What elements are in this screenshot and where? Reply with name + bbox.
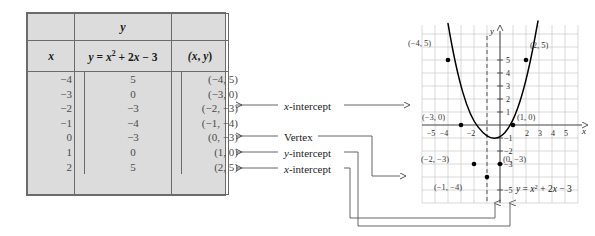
annotation-label-rest: -intercept <box>289 100 331 112</box>
point-label-0-neg3: (0, −3) <box>503 154 526 164</box>
table-row: 2 5 (2, 5) <box>26 160 244 175</box>
table-row: −3 0 (−3, 0) <box>26 87 244 102</box>
cell-pair: (2, 5) <box>182 160 245 175</box>
header-pair-blank-top <box>172 14 229 41</box>
y-axis-label: y <box>489 26 494 36</box>
cell-pair: (−1, −4) <box>182 116 245 131</box>
table-header-row-1: y <box>28 14 229 41</box>
cell-y: 5 <box>85 160 182 175</box>
point-1-0 <box>511 123 516 128</box>
cell-x: 0 <box>26 130 85 145</box>
header-corner-blank <box>28 14 75 41</box>
cell-pair: (−4, 5) <box>182 72 245 87</box>
annotation-y-intercept: y-intercept <box>284 147 331 159</box>
xtick-2: 2 <box>525 129 529 138</box>
point-neg1-neg4-vertex <box>485 175 490 180</box>
parabola-graph: x y −5 −4 −2 2 3 4 5 5 4 3 2 1 −1 −2 −3 … <box>404 12 595 208</box>
cell-y: −4 <box>85 116 182 131</box>
annotation-label-rest: -intercept <box>289 147 331 159</box>
cell-y: −3 <box>85 101 182 116</box>
point-2-5 <box>524 58 529 63</box>
cell-pair: (−2, −3) <box>182 101 245 116</box>
xtick-neg2: −2 <box>467 129 476 138</box>
ytick-2: 2 <box>506 95 510 104</box>
parabola-curve <box>448 22 541 109</box>
table-header-row-2: x y = x2 + 2x − 3 (x, y) <box>28 41 229 72</box>
point-0-neg3 <box>498 162 503 167</box>
table-body: −4 5 (−4, 5) −3 0 (−3, 0) −2 −3 (−2, −3)… <box>26 72 226 196</box>
annotation-label-rest: Vertex <box>284 131 313 143</box>
cell-x: 2 <box>26 160 85 175</box>
cell-pair: (1, 0) <box>182 145 245 160</box>
ytick-4: 4 <box>506 69 510 78</box>
ytick-3: 3 <box>506 82 510 91</box>
table-row: 0 −3 (0, −3) <box>26 130 244 145</box>
cell-y: −3 <box>85 130 182 145</box>
annotation-x-intercept-1: x-intercept <box>284 100 331 112</box>
xtick-4: 4 <box>551 129 555 138</box>
point-label-neg4-5: (−4, 5) <box>408 38 431 48</box>
xtick-neg4: −4 <box>440 129 449 138</box>
table-row: −1 −4 (−1, −4) <box>26 116 244 131</box>
cell-x: 1 <box>26 145 85 160</box>
ytick-5: 5 <box>506 56 510 65</box>
figure-root: y x y = x2 + 2x − 3 (x, y) <box>0 0 595 236</box>
annotation-vertex: Vertex <box>284 131 313 143</box>
point-label-1-0: (1, 0) <box>517 112 536 122</box>
point-neg3-0 <box>459 123 464 128</box>
point-label-neg3-0: (−3, 0) <box>422 112 445 122</box>
table-body-rows: −4 5 (−4, 5) −3 0 (−3, 0) −2 −3 (−2, −3)… <box>26 72 244 174</box>
cell-y: 0 <box>85 87 182 102</box>
ytick-1: 1 <box>506 108 510 117</box>
cell-x: −4 <box>26 72 85 87</box>
xtick-neg5: −5 <box>427 129 436 138</box>
point-label-neg1-neg4: (−1, −4) <box>434 182 462 192</box>
point-label-2-5: (2, 5) <box>530 40 549 50</box>
table-row: 1 0 (1, 0) <box>26 145 244 160</box>
cell-y: 0 <box>85 145 182 160</box>
cell-x: −3 <box>26 87 85 102</box>
cell-x: −2 <box>26 101 85 116</box>
point-neg2-neg3 <box>472 162 477 167</box>
header-ordered-pair: (x, y) <box>172 41 229 72</box>
cell-y: 5 <box>85 72 182 87</box>
point-neg4-5 <box>446 58 451 63</box>
x-axis-label: x <box>581 126 586 136</box>
cell-x: −1 <box>26 116 85 131</box>
ytick-neg5: −5 <box>504 186 513 195</box>
point-label-neg2-neg3: (−2, −3) <box>421 154 449 164</box>
header-equation: y = x2 + 2x − 3 <box>75 41 172 72</box>
cell-pair: (−3, 0) <box>182 87 245 102</box>
graph-equation-label: y = x2 + 2x − 3 <box>515 183 572 195</box>
ytick-neg1: −1 <box>504 134 513 143</box>
header-y: y <box>75 14 172 41</box>
xtick-5: 5 <box>564 129 568 138</box>
table-row: −4 5 (−4, 5) <box>26 72 244 87</box>
annotation-label-rest: -intercept <box>289 163 331 175</box>
header-x: x <box>28 41 75 72</box>
graph-svg: x y −5 −4 −2 2 3 4 5 5 4 3 2 1 −1 −2 −3 … <box>404 12 595 208</box>
cell-pair: (0, −3) <box>182 130 245 145</box>
table-body-grid: −4 5 (−4, 5) −3 0 (−3, 0) −2 −3 (−2, −3)… <box>26 72 244 174</box>
table-row: −2 −3 (−2, −3) <box>26 101 244 116</box>
annotation-x-intercept-2: x-intercept <box>284 163 331 175</box>
xtick-3: 3 <box>538 129 542 138</box>
